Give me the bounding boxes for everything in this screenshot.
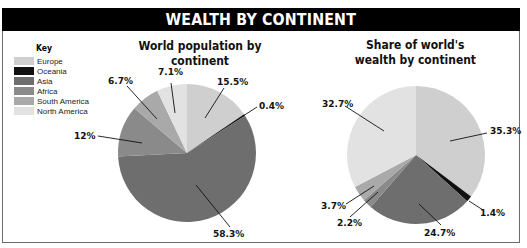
label-pop-asia: 58.3%: [213, 229, 244, 239]
pie-charts: 15.5% 0.4% 58.3% 12% 6.7% 7.1% 35.3% 1.4…: [0, 0, 527, 248]
wealth-pie: [347, 86, 485, 224]
label-pop-europe: 15.5%: [217, 77, 248, 87]
label-pop-north-america: 7.1%: [158, 67, 183, 77]
label-wealth-oceania: 1.4%: [480, 208, 505, 218]
label-wealth-north-america: 32.7%: [322, 99, 353, 109]
label-wealth-south-america: 3.7%: [321, 201, 346, 211]
label-pop-south-america: 6.7%: [108, 76, 133, 86]
label-wealth-asia: 24.7%: [424, 228, 455, 238]
label-pop-africa: 12%: [74, 131, 96, 141]
label-pop-oceania: 0.4%: [259, 101, 284, 111]
population-pie: [118, 84, 256, 222]
label-wealth-europe: 35.3%: [490, 126, 521, 136]
label-wealth-africa: 2.2%: [337, 218, 362, 228]
